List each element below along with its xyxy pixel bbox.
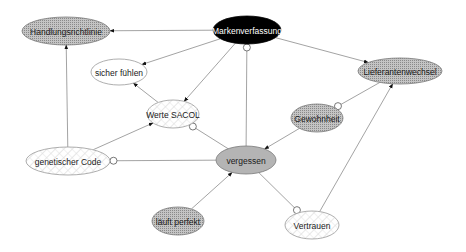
node-label: Vertrauen [294, 221, 331, 231]
nodes-layer: MarkenverfassungHandlungsrichtlinieLiefe… [22, 16, 442, 239]
node-label: läuft perfekt [156, 217, 201, 227]
edge-markenverfassung-to-sicher-fuehlen [142, 39, 221, 65]
edge-laeuft-perfekt-to-vergessen [191, 172, 232, 209]
edge-vertrauen-to-lieferantenwechsel [320, 84, 393, 212]
node-vertrauen[interactable]: Vertrauen [285, 211, 339, 239]
edge-genetischer-code-to-handlungsrichtlinie [66, 45, 68, 147]
edge-werte-sacol-to-sicher-fuehlen [133, 83, 158, 102]
node-label: vergessen [226, 156, 265, 166]
node-sicher-fuehlen[interactable]: sicher fühlen [91, 59, 147, 85]
node-laeuft-perfekt[interactable]: läuft perfekt [152, 207, 204, 235]
circle-endpoint-icon [110, 157, 117, 164]
edge-markenverfassung-to-lieferantenwechsel [275, 38, 368, 63]
circle-endpoint-icon [243, 44, 250, 51]
node-werte-sacol[interactable]: Werte SACOL [146, 100, 200, 128]
node-vergessen[interactable]: vergessen [216, 146, 276, 174]
edge-vergessen-to-werte-sacol [189, 123, 228, 149]
node-label: sicher fühlen [95, 68, 143, 78]
edge-vergessen-to-genetischer-code [110, 157, 216, 164]
node-label: Werte SACOL [146, 110, 200, 120]
node-lieferantenwechsel[interactable]: Lieferantenwechsel [358, 58, 442, 84]
edge-genetischer-code-to-werte-sacol [93, 123, 153, 150]
concept-map-svg: MarkenverfassungHandlungsrichtlinieLiefe… [0, 0, 466, 252]
edge-gewohnheit-to-vergessen [265, 128, 300, 149]
node-handlungsrichtlinie[interactable]: Handlungsrichtlinie [22, 17, 110, 45]
concept-map-canvas: MarkenverfassungHandlungsrichtlinieLiefe… [0, 0, 466, 252]
node-markenverfassung[interactable]: Markenverfassung [212, 16, 282, 44]
edge-lieferantenwechsel-to-gewohnheit [334, 82, 379, 109]
node-label: Lieferantenwechsel [363, 67, 436, 77]
node-label: Markenverfassung [212, 26, 282, 36]
node-label: Gewohnheit [294, 114, 340, 124]
edges-layer [66, 30, 392, 213]
node-label: Handlungsrichtlinie [30, 27, 102, 37]
edge-markenverfassung-to-handlungsrichtlinie [110, 30, 213, 31]
edge-vergessen-to-vertrauen [259, 173, 301, 214]
node-label: genetischer Code [35, 157, 102, 167]
edge-markenverfassung-to-werte-sacol [184, 43, 235, 101]
node-gewohnheit[interactable]: Gewohnheit [291, 104, 343, 132]
edge-vergessen-to-markenverfassung [243, 44, 250, 146]
node-genetischer-code[interactable]: genetischer Code [26, 147, 110, 175]
